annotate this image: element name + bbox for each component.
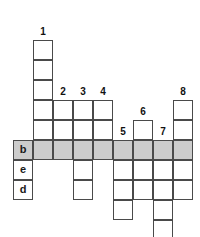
crossword-cell[interactable]: [113, 180, 133, 200]
crossword-cell[interactable]: [93, 140, 113, 160]
crossword-cell[interactable]: [33, 140, 53, 160]
crossword-cell[interactable]: [133, 140, 153, 160]
crossword-cell[interactable]: [73, 120, 93, 140]
crossword-cell-filled[interactable]: b: [13, 140, 33, 160]
crossword-cell[interactable]: [73, 140, 93, 160]
crossword-cell[interactable]: [33, 60, 53, 80]
crossword-cell[interactable]: [153, 160, 173, 180]
crossword-cell[interactable]: [93, 120, 113, 140]
crossword-puzzle: bed12345678: [0, 0, 200, 237]
crossword-cell[interactable]: [33, 120, 53, 140]
crossword-cell[interactable]: [173, 160, 193, 180]
crossword-cell[interactable]: [153, 200, 173, 220]
crossword-cell[interactable]: [173, 140, 193, 160]
crossword-cell[interactable]: [33, 100, 53, 120]
crossword-cell[interactable]: [113, 160, 133, 180]
crossword-cell[interactable]: [133, 120, 153, 140]
crossword-cell-filled[interactable]: e: [13, 160, 33, 180]
crossword-cell[interactable]: [93, 100, 113, 120]
crossword-cell[interactable]: [173, 180, 193, 200]
crossword-cell[interactable]: [153, 220, 173, 237]
crossword-cell[interactable]: [153, 180, 173, 200]
clue-number: 1: [33, 26, 53, 38]
crossword-cell[interactable]: [53, 140, 73, 160]
clue-number: 4: [93, 86, 113, 98]
crossword-cell[interactable]: [133, 180, 153, 200]
clue-number: 7: [153, 126, 173, 138]
crossword-cell[interactable]: [133, 160, 153, 180]
crossword-cell[interactable]: [173, 120, 193, 140]
crossword-cell[interactable]: [73, 160, 93, 180]
crossword-cell[interactable]: [33, 40, 53, 60]
crossword-cell[interactable]: [73, 180, 93, 200]
crossword-cell-filled[interactable]: d: [13, 180, 33, 200]
clue-number: 2: [53, 86, 73, 98]
crossword-cell[interactable]: [153, 140, 173, 160]
clue-number: 8: [173, 86, 193, 98]
crossword-cell[interactable]: [33, 80, 53, 100]
crossword-cell[interactable]: [113, 140, 133, 160]
crossword-cell[interactable]: [113, 200, 133, 220]
crossword-cell[interactable]: [53, 120, 73, 140]
crossword-cell[interactable]: [53, 100, 73, 120]
clue-number: 3: [73, 86, 93, 98]
crossword-cell[interactable]: [73, 100, 93, 120]
clue-number: 5: [113, 126, 133, 138]
crossword-cell[interactable]: [173, 100, 193, 120]
clue-number: 6: [133, 106, 153, 118]
